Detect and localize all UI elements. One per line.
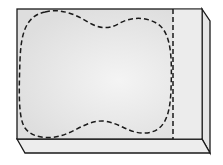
front-face-right-strip bbox=[173, 10, 201, 139]
right-side-face bbox=[202, 9, 210, 153]
slab-diagram bbox=[0, 0, 223, 165]
bottom-face bbox=[17, 139, 210, 153]
